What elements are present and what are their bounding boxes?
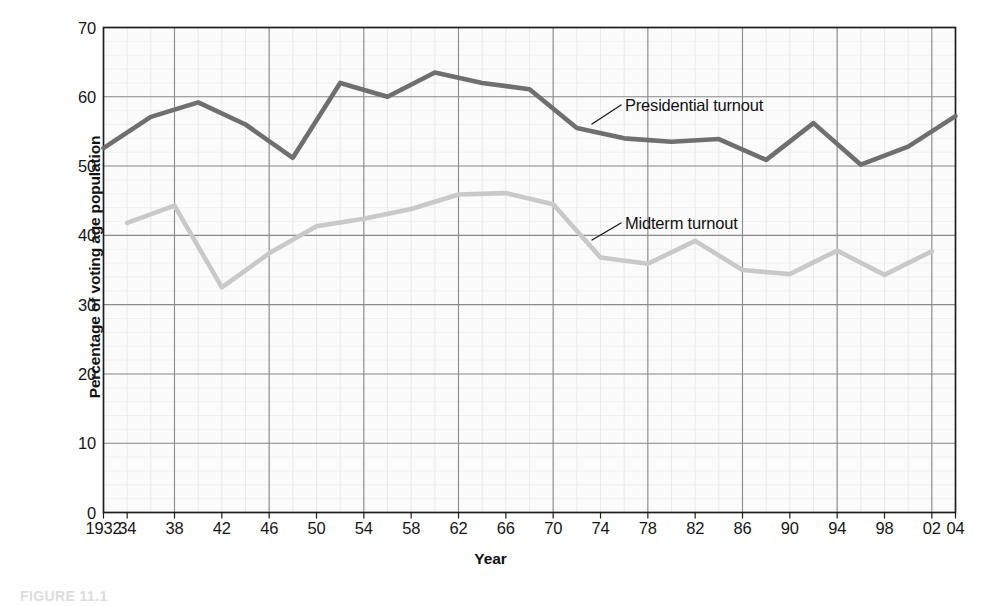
axis-tick-marks	[104, 513, 956, 519]
x-tick-label: 70	[544, 519, 562, 538]
x-tick-label: 74	[592, 519, 610, 538]
x-tick-label: 66	[497, 519, 515, 538]
x-tick-label: 38	[166, 519, 184, 538]
x-tick-label: 54	[355, 519, 373, 538]
x-axis-tick-labels: 1932343842465054586266707478828690949802…	[0, 519, 981, 549]
x-tick-label: 98	[876, 519, 894, 538]
x-tick-label: 02	[923, 519, 941, 538]
x-tick-label: 46	[260, 519, 278, 538]
figure-container: Percentage of voting age population 0102…	[0, 0, 981, 606]
chart-plot-area	[0, 0, 981, 606]
x-tick-label: 1932	[86, 519, 122, 538]
figure-caption: FIGURE 11.1	[20, 588, 108, 604]
x-tick-label: 78	[639, 519, 657, 538]
x-tick-label: 90	[781, 519, 799, 538]
series-label-midterm: Midterm turnout	[625, 214, 738, 233]
x-tick-label: 62	[450, 519, 468, 538]
x-tick-label: 58	[402, 519, 420, 538]
minor-gridlines	[104, 28, 956, 513]
x-tick-label: 82	[686, 519, 704, 538]
x-tick-label: 50	[308, 519, 326, 538]
series-label-presidential: Presidential turnout	[625, 96, 763, 115]
x-axis-title: Year	[0, 550, 981, 568]
x-tick-label: 94	[828, 519, 846, 538]
x-tick-label: 86	[734, 519, 752, 538]
x-tick-label: 34	[118, 519, 136, 538]
x-tick-label: 42	[213, 519, 231, 538]
x-tick-label: 04	[947, 519, 965, 538]
